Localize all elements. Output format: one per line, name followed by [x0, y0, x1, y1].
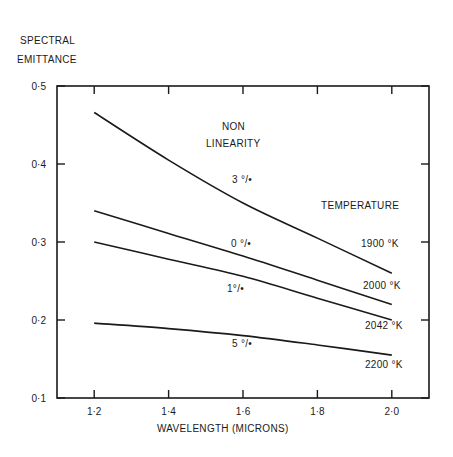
y-axis-label-line1: SPECTRAL	[20, 35, 75, 46]
y-tick-label: 0·3	[32, 237, 47, 248]
y-axis-label-line2: EMITTANCE	[17, 54, 77, 65]
nonlinearity-label: 1°/•	[227, 283, 244, 294]
x-tick-label: 1·8	[310, 406, 325, 417]
nonlinearity-label: 0 °/•	[231, 238, 251, 249]
series-line	[94, 242, 392, 320]
nonlinearity-label: 5 °/•	[232, 338, 252, 349]
x-tick-label: 1·6	[236, 406, 251, 417]
series-line	[94, 113, 392, 274]
emittance-chart: 1·21·41·61·82·00·10·20·30·40·5 SPECTRAL …	[0, 0, 453, 457]
x-axis-label: WAVELENGTH (MICRONS)	[157, 423, 289, 434]
temperature-label: 2000 °K	[363, 280, 401, 291]
nonlinearity-header-line2: LINEARITY	[206, 138, 260, 149]
temperature-header: TEMPERATURE	[321, 200, 399, 211]
x-tick-label: 2·0	[385, 406, 400, 417]
y-tick-label: 0·4	[32, 159, 47, 170]
nonlinearity-label: 3 °/•	[232, 174, 252, 185]
chart-labels: SPECTRAL EMITTANCE WAVELENGTH (MICRONS) …	[17, 35, 399, 434]
x-tick-label: 1·4	[161, 406, 176, 417]
temperature-label: 2042 °K	[365, 320, 403, 331]
y-tick-label: 0·5	[32, 81, 47, 92]
y-tick-label: 0·1	[32, 393, 47, 404]
temperature-label: 2200 °K	[365, 359, 403, 370]
temperature-label: 1900 °K	[361, 238, 399, 249]
x-tick-label: 1·2	[87, 406, 102, 417]
nonlinearity-header-line1: NON	[222, 121, 245, 132]
y-tick-label: 0·2	[32, 315, 47, 326]
